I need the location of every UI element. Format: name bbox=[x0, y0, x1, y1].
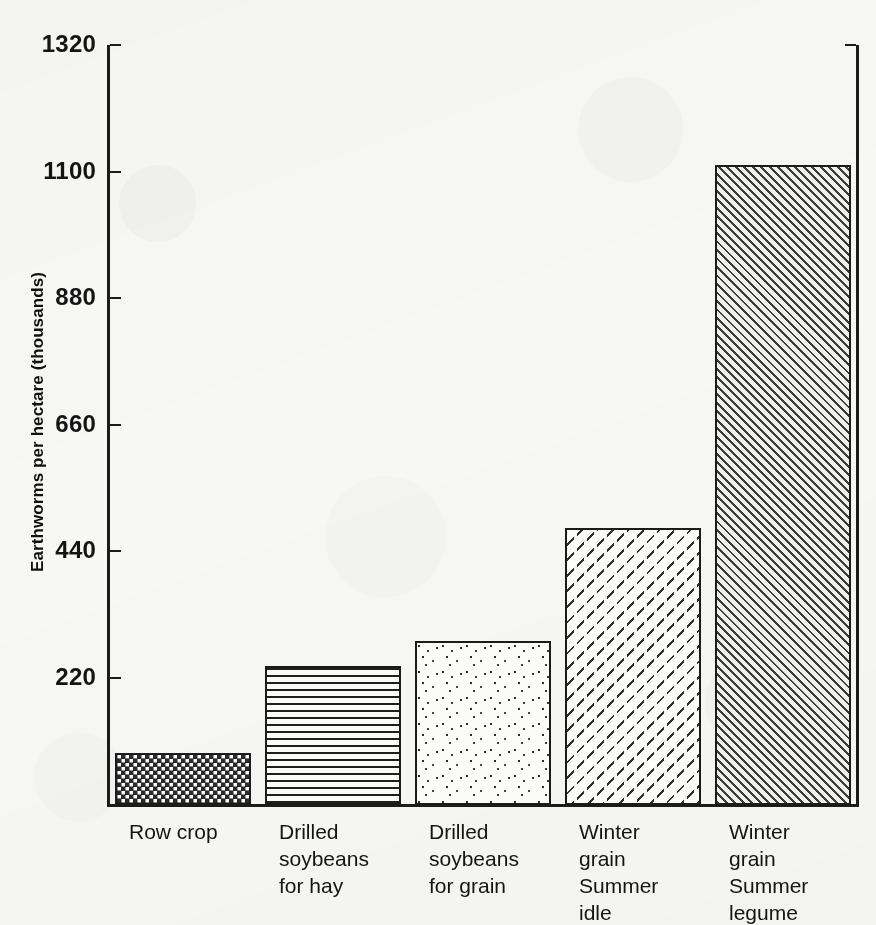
category-label-3: Drilled soybeans for grain bbox=[429, 818, 575, 899]
y-tick-label-1320: 1320 bbox=[18, 32, 96, 56]
category-label-5: Winter grain Summer legume bbox=[729, 818, 875, 925]
bar-5[interactable] bbox=[715, 165, 851, 805]
y-axis-title: Earthworms per hectare (thousands) bbox=[28, 232, 48, 612]
bars-layer bbox=[108, 45, 858, 805]
bar-3[interactable] bbox=[415, 641, 551, 805]
category-label-1: Row crop bbox=[129, 818, 275, 845]
bar-chart-plot: 22044066088011001320 Earthworms per hect… bbox=[0, 0, 876, 925]
bar-1[interactable] bbox=[115, 753, 251, 805]
category-label-4: Winter grain Summer idle bbox=[579, 818, 725, 925]
chart-page: 22044066088011001320 Earthworms per hect… bbox=[0, 0, 876, 925]
y-tick-label-220: 220 bbox=[18, 665, 96, 689]
y-tick-label-1100: 1100 bbox=[18, 159, 96, 183]
bar-4[interactable] bbox=[565, 528, 701, 805]
category-label-2: Drilled soybeans for hay bbox=[279, 818, 425, 899]
category-labels: Row cropDrilled soybeans for hayDrilled … bbox=[108, 818, 858, 922]
bar-2[interactable] bbox=[265, 666, 401, 805]
